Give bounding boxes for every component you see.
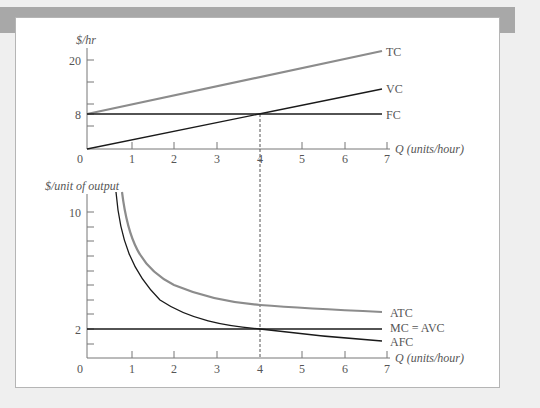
svg-text:5: 5 [299, 152, 305, 166]
svg-text:5: 5 [299, 362, 305, 376]
cost-curves-figure: $/hr 20 8 TC VC FC Q (units/hour) 0 1 2 … [0, 0, 540, 408]
svg-text:0: 0 [77, 152, 83, 166]
svg-text:6: 6 [342, 362, 348, 376]
atc-label: ATC [390, 306, 413, 320]
bottom-ytick-2: 2 [75, 323, 81, 337]
svg-text:0: 0 [77, 362, 83, 376]
svg-text:3: 3 [214, 152, 220, 166]
afc-label: AFC [390, 335, 413, 349]
svg-text:1: 1 [129, 362, 135, 376]
top-y-axis-label: $/hr [76, 33, 96, 47]
svg-text:3: 3 [214, 362, 220, 376]
svg-text:4: 4 [257, 152, 263, 166]
svg-text:4: 4 [257, 362, 263, 376]
top-xtick-labels: 0 1 2 3 4 5 6 7 [77, 152, 390, 166]
bottom-x-axis-label: Q (units/hour) [395, 351, 464, 365]
tc-line [87, 51, 382, 114]
svg-text:7: 7 [384, 362, 390, 376]
fc-label: FC [386, 108, 401, 122]
vc-line [87, 89, 382, 149]
svg-text:1: 1 [129, 152, 135, 166]
svg-text:2: 2 [171, 362, 177, 376]
bottom-y-axis-label: $/unit of output [45, 179, 120, 193]
top-ytick-8: 8 [75, 108, 81, 122]
mc-avc-label: MC = AVC [390, 321, 445, 335]
top-ytick-20: 20 [69, 54, 81, 68]
atc-curve [122, 192, 382, 312]
svg-text:2: 2 [171, 152, 177, 166]
bottom-ytick-10: 10 [69, 206, 81, 220]
svg-text:7: 7 [384, 152, 390, 166]
vc-label: VC [386, 82, 403, 96]
svg-text:6: 6 [342, 152, 348, 166]
tc-label: TC [386, 45, 401, 59]
top-x-axis-label: Q (units/hour) [395, 142, 464, 156]
bottom-xtick-labels: 0 1 2 3 4 5 6 7 [77, 362, 390, 376]
afc-curve [116, 192, 382, 341]
bottom-chart: $/unit of output 10 2 ATC MC = AVC AFC Q… [45, 179, 464, 376]
